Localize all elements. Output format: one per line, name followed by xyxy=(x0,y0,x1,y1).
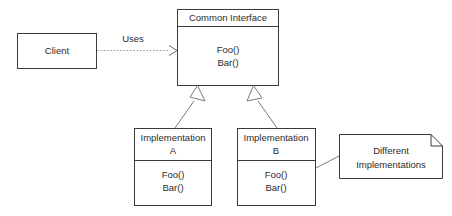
dependency-open-arrowhead xyxy=(169,46,177,56)
class-box-common-interface[interactable]: Common Interface Foo() Bar() xyxy=(178,10,279,86)
uml-class-diagram: Common Interface ============ --> Uses C… xyxy=(0,0,452,216)
class-box-implementation-b[interactable]: Implementation B Foo() Bar() xyxy=(238,129,316,206)
note-text-line-1: Different xyxy=(373,145,409,156)
common-interface-operation-1: Foo() xyxy=(217,44,240,55)
implementation-a-operation-1: Foo() xyxy=(162,169,185,180)
implementation-b-operation-2: Bar() xyxy=(265,182,286,193)
common-interface-operation-2: Bar() xyxy=(217,57,238,68)
generalization-b-line xyxy=(258,101,277,128)
class-box-implementation-a[interactable]: Implementation A Foo() Bar() xyxy=(135,129,212,206)
diagram-canvas: Common Interface ============ --> Uses C… xyxy=(0,0,452,216)
generalization-a-line xyxy=(175,101,194,128)
generalization-b-hollow-triangle xyxy=(247,86,262,102)
note-different-implementations[interactable]: Different Implementations xyxy=(340,135,443,179)
generalization-a-hollow-triangle xyxy=(190,86,205,102)
note-box-outline xyxy=(340,135,443,179)
generalization-implementation-b xyxy=(247,86,277,129)
implementation-a-class-name-line-2: A xyxy=(170,145,177,156)
implementation-b-operation-1: Foo() xyxy=(265,169,288,180)
implementation-a-class-name-line-1: Implementation xyxy=(141,132,206,143)
common-interface-class-name: Common Interface xyxy=(189,12,267,23)
implementation-a-operation-2: Bar() xyxy=(162,182,183,193)
implementation-b-class-name-line-2: B xyxy=(273,145,279,156)
generalization-implementation-a xyxy=(175,86,205,129)
class-box-client[interactable]: Client xyxy=(18,34,97,69)
implementation-b-class-name-line-1: Implementation xyxy=(244,132,309,143)
note-anchor-line xyxy=(316,156,339,168)
client-class-name: Client xyxy=(45,45,70,56)
dependency-label: Uses xyxy=(122,33,144,44)
dependency-uses: Uses xyxy=(97,33,177,56)
note-text-line-2: Implementations xyxy=(356,159,426,170)
